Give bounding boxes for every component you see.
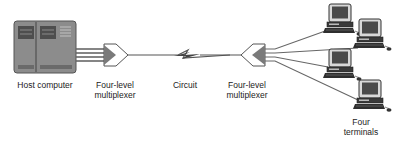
terminals-label-line2: terminals (338, 127, 384, 137)
left-multiplexer-label: Four-level multiplexer (90, 80, 140, 100)
terminals-label: Four terminals (338, 117, 384, 137)
circuit-label: Circuit (165, 80, 205, 90)
circuit-link (128, 50, 241, 59)
left-multiplexer-label-line2: multiplexer (90, 90, 140, 100)
terminal-2-icon (353, 19, 392, 51)
left-multiplexer-icon (104, 44, 128, 66)
terminals-label-line1: Four (338, 117, 384, 127)
terminal-1-icon (323, 4, 362, 36)
host-computer-label: Host computer (14, 80, 76, 90)
host-computer-icon (14, 21, 76, 73)
right-multiplexer-icon (241, 44, 265, 66)
terminal-3-icon (323, 49, 362, 81)
left-multiplexer-label-line1: Four-level (90, 80, 140, 90)
right-multiplexer-label: Four-level multiplexer (222, 80, 272, 100)
right-multiplexer-label-line1: Four-level (222, 80, 272, 90)
host-to-mux-lines (76, 49, 104, 61)
right-multiplexer-label-line2: multiplexer (222, 90, 272, 100)
terminal-4-icon (353, 80, 392, 112)
